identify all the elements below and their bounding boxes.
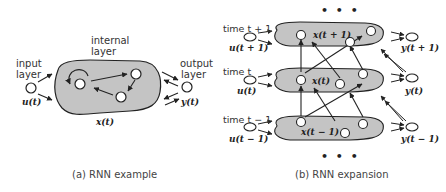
internal-layer-label: internal <box>91 35 129 46</box>
output-node-t-minus-1 <box>406 123 418 131</box>
output-symbol-t-minus-1: y(t − 1) <box>401 134 439 144</box>
state-symbol-t: x(t) <box>312 76 330 86</box>
rnn-figure: input layer internal layer output layer … <box>0 0 446 192</box>
time-label-t-plus-1: time t + 1 <box>223 23 271 34</box>
time-label-t-minus-1: time t − 1 <box>223 114 271 125</box>
input-node-t <box>244 76 256 84</box>
ellipsis-top: • • • <box>321 4 360 17</box>
output-symbol-t-plus-1: y(t + 1) <box>401 43 439 53</box>
state-symbol-t-minus-1: x(t − 1) <box>301 127 339 137</box>
output-symbol: y(t) <box>181 97 199 107</box>
input-symbol-t-minus-1: u(t − 1) <box>229 134 268 144</box>
input-node-t-plus-1 <box>244 33 256 41</box>
caption-b: (b) RNN expansion <box>295 169 389 180</box>
input-node <box>26 83 36 93</box>
input-layer-label: input <box>16 58 42 69</box>
panel-a-diagram <box>26 60 192 114</box>
internal-node-2 <box>131 69 141 79</box>
internal-layer-label-2: layer <box>91 46 116 57</box>
output-layer-label-2: layer <box>181 69 206 80</box>
internal-node-3 <box>116 92 126 102</box>
output-node-t-plus-1 <box>406 33 418 41</box>
output-layer-label: output <box>180 58 213 69</box>
internal-node-1 <box>75 79 85 89</box>
output-symbol-t: y(t) <box>405 86 423 96</box>
output-node-t <box>406 74 418 82</box>
state-symbol-t-plus-1: x(t + 1) <box>313 30 351 40</box>
input-symbol: u(t) <box>22 97 41 107</box>
caption-a: (a) RNN example <box>72 169 157 180</box>
time-label-t: time t <box>223 66 251 77</box>
ellipsis-bottom: • • • <box>321 150 360 163</box>
input-symbol-t: u(t) <box>237 86 256 96</box>
state-symbol: x(t) <box>96 117 114 127</box>
input-symbol-t-plus-1: u(t + 1) <box>229 43 268 53</box>
output-node <box>182 82 192 92</box>
internal-layer-blob <box>55 60 161 114</box>
input-layer-label-2: layer <box>16 69 41 80</box>
